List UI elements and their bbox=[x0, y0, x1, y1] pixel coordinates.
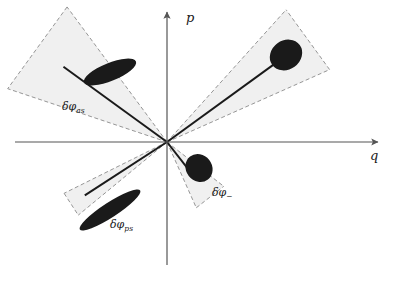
antisqueezed-wedge-fill bbox=[8, 7, 167, 142]
momentum-axis-label: p bbox=[186, 10, 195, 25]
wedges-layer bbox=[8, 7, 330, 215]
phase-squeezed-wedge-label: δφps bbox=[110, 218, 133, 233]
blobs-layer bbox=[76, 33, 309, 236]
antisqueezed-wedge-label-main: δφ bbox=[62, 100, 77, 113]
antisqueezed-wedge-label-sub: as bbox=[76, 106, 84, 115]
phase-minus-wedge-label-main: δφ bbox=[212, 186, 227, 199]
phase-plus-wedge-label-main: δφ bbox=[275, 47, 290, 60]
phase-space-figure: pqδφasδφ+δφ−δφps bbox=[0, 0, 400, 282]
phase-squeezed-wedge-label-main: δφ bbox=[110, 218, 125, 231]
phase-squeezed-wedge-radial-line bbox=[85, 142, 167, 195]
phase-minus-wedge-label: δφ− bbox=[212, 186, 233, 201]
phase-plus-wedge-radial-line bbox=[167, 56, 286, 142]
phase-minus-wedge-label-sub: − bbox=[226, 192, 232, 201]
figure-canvas: pqδφasδφ+δφ−δφps bbox=[0, 0, 400, 282]
phase-squeezed-wedge-label-sub: ps bbox=[124, 224, 133, 233]
phase-plus-wedge-label-sub: + bbox=[289, 53, 295, 62]
phase-plus-wedge-fill bbox=[167, 10, 330, 142]
phase-plus-wedge bbox=[167, 10, 330, 142]
position-axis-label: q bbox=[370, 148, 378, 163]
antisqueezed-wedge bbox=[8, 7, 167, 142]
